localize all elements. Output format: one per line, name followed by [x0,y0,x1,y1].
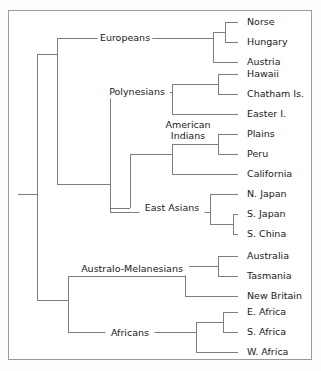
clade-label-line: Africans [111,327,149,338]
leaf-label: W. Africa [247,346,288,357]
clade-label-layer: EuropeansPolynesiansAmericanIndiansEast … [75,32,213,340]
dendrogram-plot: NorseHungaryAustriaHawaiiChatham Is.East… [0,0,321,371]
clade-label-line: Indians [171,129,205,140]
clade-label-line: American [165,118,210,129]
leaf-label: S. Africa [247,326,286,337]
clade-label: Africans [111,327,149,338]
leaf-label: S. China [247,228,286,239]
clade-label: East Asians [145,202,199,213]
leaf-label: Australia [247,250,289,261]
leaf-label: Hungary [247,36,288,47]
leaf-label: New Britain [247,290,302,301]
clade-label: Europeans [100,32,150,43]
leaf-label: Norse [247,16,275,27]
clade-label-line: Polynesians [109,86,165,97]
leaf-label: S. Japan [247,208,286,219]
figure-canvas: NorseHungaryAustriaHawaiiChatham Is.East… [0,0,321,371]
clade-label: Australo-Melanesians [81,263,183,274]
branch-layer [18,22,238,352]
clade-label-line: Europeans [100,32,150,43]
clade-label: AmericanIndians [165,118,210,140]
leaf-label: Hawaii [247,68,279,79]
leaf-label: N. Japan [247,188,287,199]
leaf-label: Easter I. [247,108,286,119]
clade-label-line: Australo-Melanesians [81,263,183,274]
leaf-label-layer: NorseHungaryAustriaHawaiiChatham Is.East… [246,16,304,357]
leaf-label: California [247,168,292,179]
leaf-label: E. Africa [247,306,286,317]
leaf-label: Peru [247,148,268,159]
leaf-label: Chatham Is. [247,88,304,99]
leaf-label: Plains [247,128,275,139]
clade-label-line: East Asians [145,202,199,213]
leaf-label: Austria [247,56,281,67]
clade-label: Polynesians [109,86,165,97]
leaf-label: Tasmania [246,270,292,281]
